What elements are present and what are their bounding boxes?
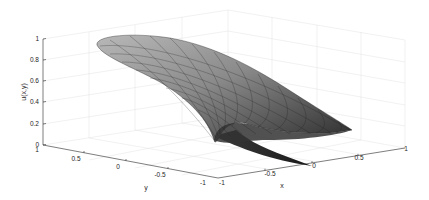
y-axis-label: y	[144, 184, 148, 192]
z-axis-label: u(x,y)	[20, 83, 28, 101]
surface-plot: 1 0.8 0.6 0.4 0.2 0 u(x,y) 1 0.5 0 -0.5 …	[0, 0, 429, 200]
z-axis: 1 0.8 0.6 0.4 0.2 0 u(x,y)	[20, 35, 46, 148]
x-tick-label: -0.5	[264, 170, 276, 177]
x-tick-label: 1	[404, 145, 408, 152]
y-tick-label: 0	[116, 163, 120, 170]
x-tick-label: -1	[219, 179, 225, 186]
y-tick-label: -1	[200, 179, 206, 186]
z-tick-label: 0.2	[30, 120, 39, 127]
z-tick-label: 0.8	[30, 56, 39, 63]
x-tick-label: 0	[312, 162, 316, 169]
y-axis: 1 0.5 0 -0.5 -1 y	[35, 145, 218, 192]
y-tick-label: -0.5	[154, 171, 166, 178]
x-axis: -1 -0.5 0 0.5 1 x	[218, 145, 408, 189]
x-axis-label: x	[280, 182, 284, 189]
z-tick-label: 1	[35, 35, 39, 42]
x-tick-label: 0.5	[354, 154, 363, 161]
y-tick-label: 0.5	[71, 155, 80, 162]
z-tick-label: 0.4	[30, 98, 39, 105]
z-tick-label: 0.6	[30, 77, 39, 84]
y-tick-label: 1	[35, 146, 39, 153]
